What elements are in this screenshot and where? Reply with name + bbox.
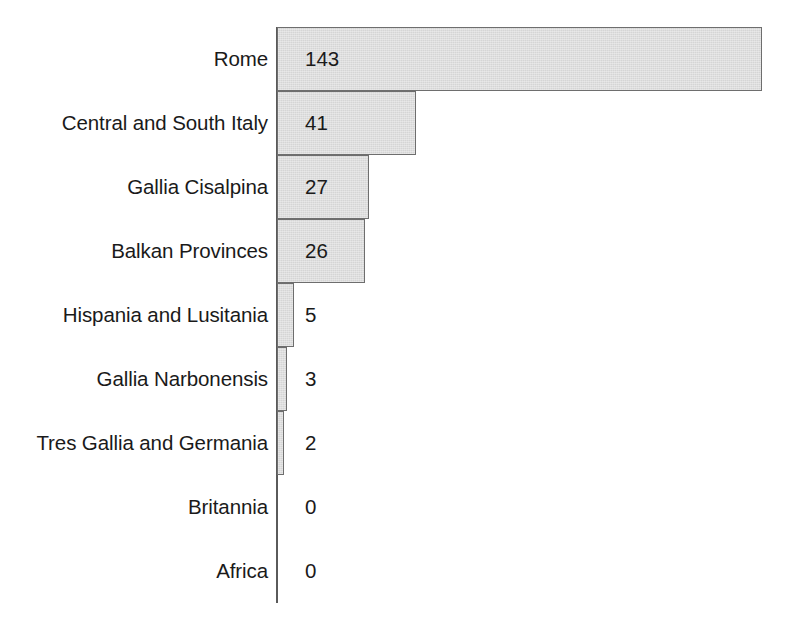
bar[interactable]: [277, 411, 284, 475]
chart-row: Tres Gallia and Germania 2: [0, 411, 789, 475]
category-label: Gallia Cisalpina: [127, 155, 268, 219]
category-label: Central and South Italy: [62, 91, 268, 155]
bar-value-label: 0: [305, 475, 316, 539]
plot-area: Rome 143 Central and South Italy 41 Gall…: [0, 0, 789, 632]
chart-row: Gallia Cisalpina 27: [0, 155, 789, 219]
bar[interactable]: [277, 27, 762, 91]
category-label: Britannia: [188, 475, 268, 539]
chart-row: Gallia Narbonensis 3: [0, 347, 789, 411]
chart-row: Africa 0: [0, 539, 789, 603]
chart-row: Hispania and Lusitania 5: [0, 283, 789, 347]
bar-value-label: 5: [305, 283, 316, 347]
bar[interactable]: [277, 347, 287, 411]
bar[interactable]: [277, 91, 416, 155]
bar-value-label: 2: [305, 411, 316, 475]
chart-row: Balkan Provinces 26: [0, 219, 789, 283]
bar-chart: Rome 143 Central and South Italy 41 Gall…: [0, 0, 789, 632]
bar-value-label: 143: [305, 27, 339, 91]
chart-row: Central and South Italy 41: [0, 91, 789, 155]
category-label: Gallia Narbonensis: [97, 347, 268, 411]
category-label: Balkan Provinces: [111, 219, 268, 283]
category-label: Tres Gallia and Germania: [36, 411, 268, 475]
bar-value-label: 3: [305, 347, 316, 411]
bar-value-label: 41: [305, 91, 328, 155]
bar-value-label: 26: [305, 219, 328, 283]
bar-value-label: 0: [305, 539, 316, 603]
bar[interactable]: [277, 283, 294, 347]
category-label: Hispania and Lusitania: [63, 283, 268, 347]
chart-row: Britannia 0: [0, 475, 789, 539]
category-label: Africa: [216, 539, 268, 603]
category-label: Rome: [214, 27, 268, 91]
chart-row: Rome 143: [0, 27, 789, 91]
bar-value-label: 27: [305, 155, 328, 219]
